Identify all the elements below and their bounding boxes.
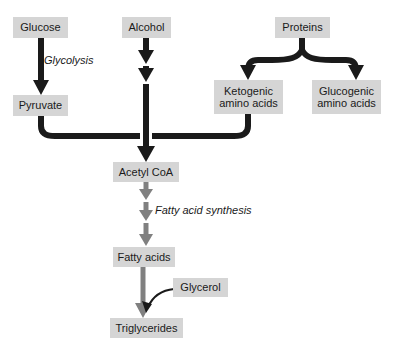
node-glucose: Glucose <box>13 17 68 38</box>
node-fatty-acids: Fatty acids <box>113 247 175 267</box>
arrow-glucose-to-pyruvate <box>33 38 49 95</box>
node-alcohol: Alcohol <box>122 17 171 38</box>
arrow-pyruvate-to-junction <box>41 116 140 136</box>
arrow-alcohol-to-junction <box>138 38 154 134</box>
arrow-glycerol-to-triglycerides <box>142 289 174 313</box>
arrow-proteins-branch <box>240 38 364 80</box>
arrow-fatty-acids-to-triglycerides <box>135 267 151 318</box>
edge-label-fatty-acid-synthesis: Fatty acid synthesis <box>155 204 252 216</box>
node-glucogenic-amino-acids: Glucogenic amino acids <box>312 80 381 114</box>
edge-label-glycolysis: Glycolysis <box>44 54 94 66</box>
node-acetyl-coa: Acetyl CoA <box>113 162 179 182</box>
pathway-diagram: Glucose Alcohol Proteins Pyruvate Ketoge… <box>0 0 400 358</box>
node-triglycerides: Triglycerides <box>110 318 183 338</box>
arrow-ketogenic-to-junction <box>152 114 248 136</box>
node-proteins: Proteins <box>275 17 330 38</box>
node-glycerol: Glycerol <box>173 278 228 297</box>
arrow-acetyl-to-fatty-acids <box>139 182 153 246</box>
node-ketogenic-amino-acids: Ketogenic amino acids <box>214 80 283 114</box>
node-pyruvate: Pyruvate <box>13 95 68 116</box>
